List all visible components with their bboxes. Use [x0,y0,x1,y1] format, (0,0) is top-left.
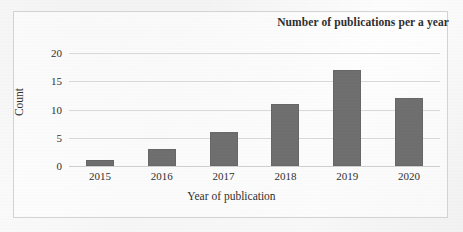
bar-series [69,53,440,166]
y-axis-title: Count [13,74,25,130]
bar [271,104,299,166]
y-tick-label: 15 [51,75,62,87]
x-tick-label: 2019 [336,170,358,182]
bar [395,98,423,166]
x-axis-title: Year of publication [0,190,463,202]
bar-slot [193,53,255,166]
bar-slot [255,53,317,166]
x-tick-label: 2017 [213,170,235,182]
bar [210,132,238,166]
x-tick-label: 2020 [398,170,420,182]
bar [333,70,361,166]
bar-slot [131,53,193,166]
x-tick-label: 2016 [151,170,173,182]
y-tick-label: 20 [51,47,62,59]
chart-title: Number of publications per a year [277,16,449,28]
y-tick-label: 10 [51,104,62,116]
scanned-page: Number of publications per a year Count … [0,0,463,232]
x-tick-label: 2018 [274,170,296,182]
bar-slot [378,53,440,166]
x-axis-ticks: 201520162017201820192020 [69,170,440,186]
x-tick-label: 2015 [89,170,111,182]
bar [148,149,176,166]
plot-area: 05101520 [69,53,440,166]
y-tick-label: 5 [57,132,63,144]
gridline-0 [69,166,440,167]
bar-slot [316,53,378,166]
y-tick-label: 0 [57,160,63,172]
bar-slot [69,53,131,166]
bar [86,160,114,166]
